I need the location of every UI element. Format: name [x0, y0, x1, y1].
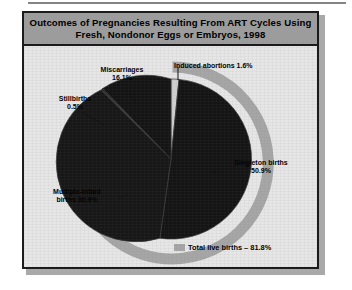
legend-swatch-total-live-births	[174, 244, 185, 251]
label-multiple-infant-births-line-2: births 30.9%	[34, 196, 120, 204]
chart-title-bar: Outcomes of Pregnancies Resulting From A…	[24, 13, 317, 46]
label-induced-abortions: Induced abortions 1.6%	[174, 62, 253, 70]
scan-artifact-line	[28, 2, 346, 4]
label-multiple-infant-births: Multiple-infant births 30.9%	[34, 188, 120, 205]
chart-title-line-2: Fresh, Nondonor Eggs or Embryos, 1998	[76, 29, 266, 41]
pie-chart-graphic	[24, 46, 317, 267]
label-stillbirths-line-2: 0.5%	[44, 103, 106, 111]
chart-legend: Total live births – 81.8%	[174, 243, 271, 252]
figure-frame: Outcomes of Pregnancies Resulting From A…	[22, 11, 319, 269]
label-stillbirths-line-1: Stillbirths	[44, 95, 106, 103]
label-stillbirths: Stillbirths 0.5%	[44, 95, 106, 112]
label-multiple-infant-births-line-1: Multiple-infant	[34, 188, 120, 196]
label-miscarriages-line-1: Miscarriages	[80, 66, 164, 74]
label-singleton-births-line-2: 50.9%	[218, 167, 304, 175]
label-singleton-births-line-1: Singleton births	[218, 159, 304, 167]
chart-plot-area: Miscarriages 16.1% Induced abortions 1.6…	[24, 46, 317, 267]
chart-title-line-1: Outcomes of Pregnancies Resulting From A…	[30, 17, 312, 29]
label-miscarriages: Miscarriages 16.1%	[80, 66, 164, 83]
label-singleton-births: Singleton births 50.9%	[218, 159, 304, 176]
label-miscarriages-line-2: 16.1%	[80, 74, 164, 82]
legend-label-total-live-births: Total live births – 81.8%	[188, 243, 271, 252]
